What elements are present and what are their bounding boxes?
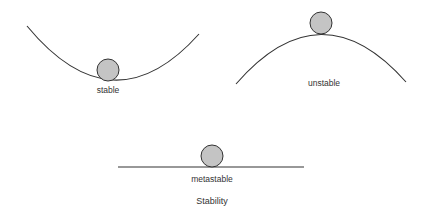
unstable-ball	[310, 12, 332, 34]
metastable-label: metastable	[191, 174, 233, 184]
unstable-label: unstable	[308, 78, 340, 88]
unstable-hill-curve	[236, 34, 406, 84]
stable-label: stable	[97, 85, 120, 95]
stable-ball	[97, 59, 119, 81]
diagram-title: Stability	[196, 196, 228, 206]
metastable-ball	[201, 145, 223, 167]
